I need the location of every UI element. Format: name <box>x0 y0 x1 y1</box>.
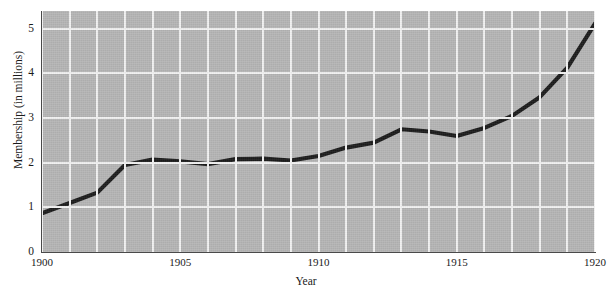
x-axis-title: Year <box>0 275 612 287</box>
gridline-vertical <box>42 11 43 252</box>
x-tick-label: 1900 <box>31 256 53 268</box>
gridline-vertical <box>179 11 181 252</box>
gridline-vertical <box>262 11 264 252</box>
gridline-horizontal <box>42 117 595 119</box>
gridline-vertical <box>373 11 375 252</box>
gridline-vertical <box>539 11 541 252</box>
gridline-vertical <box>511 11 513 252</box>
gridline-vertical <box>428 11 430 252</box>
y-axis-title: Membership (in millions) <box>12 30 24 190</box>
gridline-vertical <box>207 11 209 252</box>
gridline-vertical <box>594 11 595 252</box>
x-tick-label: 1920 <box>584 256 606 268</box>
gridline-vertical <box>96 11 98 252</box>
gridline-vertical <box>235 11 237 252</box>
gridline-horizontal <box>42 72 595 74</box>
gridline-horizontal <box>42 162 595 164</box>
y-tick-label: 0 <box>0 245 34 257</box>
gridline-vertical <box>345 11 347 252</box>
gridline-vertical <box>290 11 292 252</box>
gridline-vertical <box>400 11 402 252</box>
x-tick-label: 1905 <box>169 256 191 268</box>
gridline-vertical <box>566 11 568 252</box>
gridline-vertical <box>124 11 126 252</box>
chart-figure: 012345 19001905191019151920 Membership (… <box>0 0 612 304</box>
gridline-vertical <box>69 11 71 252</box>
gridline-horizontal <box>42 206 595 208</box>
y-tick-label: 1 <box>0 200 34 212</box>
gridline-vertical <box>483 11 485 252</box>
x-axis-line <box>42 252 596 253</box>
x-tick-label: 1915 <box>446 256 468 268</box>
gridline-vertical <box>456 11 458 252</box>
plot-area <box>42 11 595 252</box>
gridline-vertical <box>318 11 320 252</box>
y-axis-line <box>41 11 42 253</box>
gridline-vertical <box>152 11 154 252</box>
x-tick-label: 1910 <box>308 256 330 268</box>
gridline-horizontal <box>42 28 595 30</box>
